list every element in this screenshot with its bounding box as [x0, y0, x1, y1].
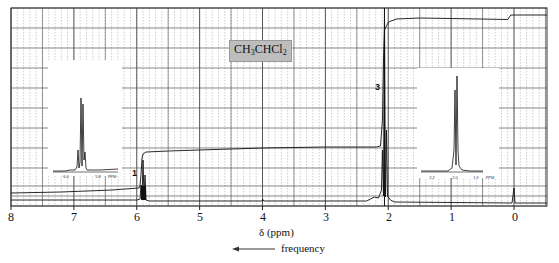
x-tick-3: 3: [323, 211, 329, 223]
x-tick-1: 1: [449, 211, 455, 223]
compound-formula-label: CH3CHCl2: [229, 40, 292, 62]
inset-left-tick-6.0: 6.0: [63, 175, 69, 179]
inset-left-unit: PPM: [108, 175, 117, 179]
inset-right-doublet: [421, 76, 483, 172]
inset-right-tick-1.9: 1.9: [473, 176, 479, 180]
x-tick-4: 4: [260, 211, 266, 223]
integration-label-doublet: 3: [375, 83, 380, 92]
x-tick-7: 7: [71, 211, 77, 223]
x-axis-title: δ (ppm): [259, 226, 294, 238]
inset-right-tick-2.2: 2.2: [429, 176, 435, 180]
x-tick-2: 2: [386, 211, 392, 223]
integration-label-quartet: 1: [132, 169, 137, 178]
inset-right-tick-2.0: 2.0: [452, 176, 458, 180]
inset-left-tick-5.8: 5.8: [95, 175, 101, 179]
frequency-label: frequency: [281, 242, 325, 254]
inset-left-quartet: [53, 98, 118, 172]
x-tick-0: 0: [512, 211, 518, 223]
x-tick-8: 8: [8, 211, 14, 223]
x-tick-6: 6: [134, 211, 140, 223]
inset-right-unit: PPM: [486, 176, 495, 180]
x-tick-5: 5: [197, 211, 203, 223]
frequency-arrow-icon: [232, 244, 276, 254]
